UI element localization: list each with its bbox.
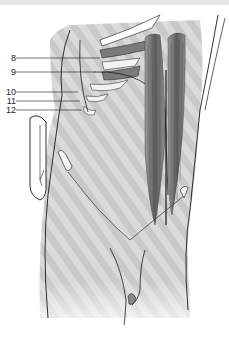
- label-rib-8: 8: [2, 54, 16, 63]
- label-rib-9: 9: [2, 68, 16, 77]
- anatomy-figure: 8 9 10 11 12: [0, 0, 229, 338]
- top-text-strip: [0, 0, 229, 5]
- left-arm: [30, 116, 46, 200]
- torso-illustration: [0, 0, 229, 338]
- label-rib-12: 12: [2, 106, 16, 115]
